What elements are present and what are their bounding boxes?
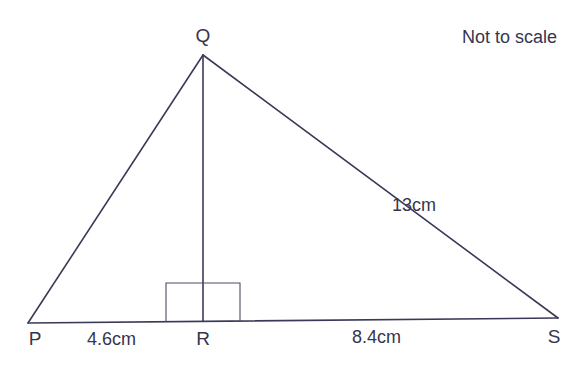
measure-RS: 8.4cm bbox=[352, 327, 401, 347]
triangle-diagram: Q P R S 4.6cm 8.4cm 13cm Not to scale bbox=[0, 0, 586, 371]
scale-note: Not to scale bbox=[462, 27, 557, 47]
measure-PR: 4.6cm bbox=[87, 329, 136, 349]
measure-QS: 13cm bbox=[392, 195, 436, 215]
vertex-label-R: R bbox=[196, 328, 210, 349]
vertex-label-P: P bbox=[29, 328, 42, 349]
side-PS bbox=[28, 318, 558, 323]
vertex-label-Q: Q bbox=[196, 25, 211, 46]
side-QS bbox=[203, 55, 558, 318]
vertex-label-S: S bbox=[548, 326, 561, 347]
